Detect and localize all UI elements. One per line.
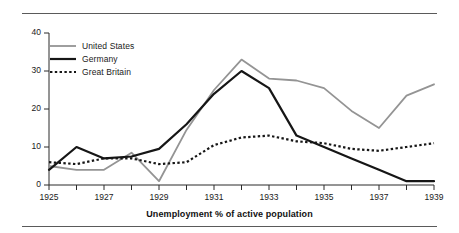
x-tick-label: 1929 xyxy=(139,192,179,202)
x-tick-label: 1939 xyxy=(414,192,454,202)
y-tick-label: 20 xyxy=(19,103,41,113)
chart-caption: Unemployment % of active population xyxy=(0,209,459,219)
legend-item: United States xyxy=(50,40,134,52)
y-tick-label: 0 xyxy=(19,179,41,189)
legend-label: Great Britain xyxy=(82,67,131,77)
x-tick-label: 1933 xyxy=(249,192,289,202)
chart-legend: United StatesGermanyGreat Britain xyxy=(50,40,134,79)
x-tick-label: 1931 xyxy=(194,192,234,202)
legend-swatch-icon xyxy=(50,68,76,76)
y-tick-label: 30 xyxy=(19,65,41,75)
legend-swatch-icon xyxy=(50,55,76,63)
figure-container: 0102030401925192719291931193319351937193… xyxy=(0,0,459,233)
legend-label: Germany xyxy=(82,54,118,64)
y-tick-label: 40 xyxy=(19,27,41,37)
x-tick-label: 1925 xyxy=(29,192,69,202)
legend-item: Great Britain xyxy=(50,66,134,78)
x-tick-label: 1935 xyxy=(304,192,344,202)
series-line-great-britain xyxy=(49,136,434,165)
y-tick-label: 10 xyxy=(19,141,41,151)
legend-swatch-icon xyxy=(50,42,76,50)
x-tick-label: 1937 xyxy=(359,192,399,202)
legend-item: Germany xyxy=(50,53,134,65)
x-tick-label: 1927 xyxy=(84,192,124,202)
legend-label: United States xyxy=(82,41,134,51)
